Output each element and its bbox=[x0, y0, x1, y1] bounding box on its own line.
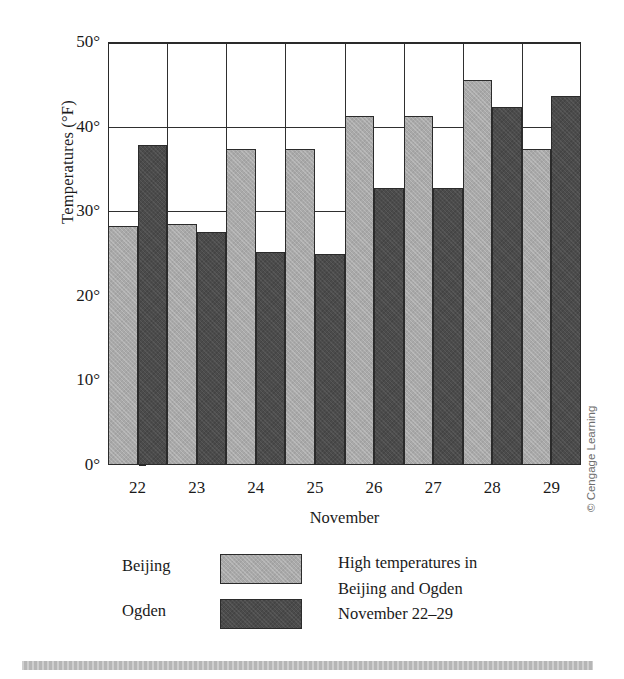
x-axis-title: November bbox=[108, 508, 581, 528]
x-tick-label: 25 bbox=[285, 478, 344, 498]
bar-beijing-28[interactable] bbox=[463, 80, 493, 465]
chart-figure: Temperatures (°F) 50°40°30°20°10°0° 2223… bbox=[0, 0, 624, 679]
y-tick-label: 10° bbox=[76, 370, 100, 390]
y-tick-label: 20° bbox=[76, 285, 100, 305]
legend-label-beijing: Beijing bbox=[122, 556, 218, 576]
copyright-credit: © Cengage Learning bbox=[585, 362, 597, 512]
bar-beijing-25[interactable] bbox=[285, 149, 315, 465]
legend-swatch-beijing bbox=[220, 554, 302, 584]
y-tick-mark bbox=[139, 465, 146, 466]
y-tick-label: 30° bbox=[76, 201, 100, 221]
bar-beijing-24[interactable] bbox=[226, 149, 256, 465]
bar-beijing-26[interactable] bbox=[345, 116, 375, 465]
bar-beijing-27[interactable] bbox=[404, 116, 434, 465]
y-tick-label: 0° bbox=[85, 455, 100, 475]
x-tick-label: 22 bbox=[108, 478, 167, 498]
caption-line-1: High temperatures in bbox=[338, 550, 568, 576]
chart-caption: High temperatures in Beijing and Ogden N… bbox=[338, 550, 568, 627]
bar-ogden-22[interactable] bbox=[138, 145, 168, 465]
legend-swatch-ogden bbox=[220, 599, 302, 629]
x-tick-label: 24 bbox=[226, 478, 285, 498]
bar-ogden-24[interactable] bbox=[256, 252, 286, 465]
bar-ogden-23[interactable] bbox=[197, 232, 227, 465]
y-axis-tick-labels: 50°40°30°20°10°0° bbox=[38, 0, 100, 679]
y-tick-label: 40° bbox=[76, 116, 100, 136]
bar-ogden-25[interactable] bbox=[315, 254, 345, 465]
caption-line-2: Beijing and Ogden bbox=[338, 576, 568, 602]
bar-ogden-28[interactable] bbox=[492, 107, 522, 465]
bar-ogden-27[interactable] bbox=[433, 188, 463, 465]
x-tick-label: 28 bbox=[463, 478, 522, 498]
legend-label-ogden: Ogden bbox=[122, 601, 218, 621]
bar-ogden-29[interactable] bbox=[551, 96, 581, 465]
bottom-divider bbox=[22, 661, 593, 670]
x-tick-label: 27 bbox=[404, 478, 463, 498]
x-tick-label: 23 bbox=[167, 478, 226, 498]
y-tick-label: 50° bbox=[76, 32, 100, 52]
bar-beijing-22[interactable] bbox=[108, 226, 138, 465]
bar-beijing-29[interactable] bbox=[522, 149, 552, 465]
bar-beijing-23[interactable] bbox=[167, 224, 197, 465]
x-tick-label: 29 bbox=[522, 478, 581, 498]
x-tick-label: 26 bbox=[345, 478, 404, 498]
plot-area bbox=[108, 42, 581, 465]
bar-ogden-26[interactable] bbox=[374, 188, 404, 465]
caption-line-3: November 22–29 bbox=[338, 601, 568, 627]
